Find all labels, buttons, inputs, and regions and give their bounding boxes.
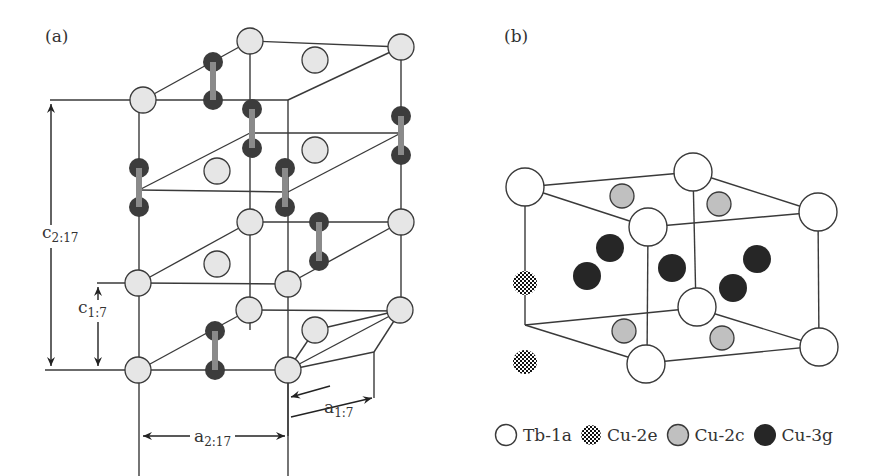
dumbbell [391, 106, 411, 165]
legend-item-cu-2e: Cu-2e [580, 424, 658, 446]
dimension-a-2-17: a2:17 [194, 426, 231, 449]
dumbbell [309, 212, 329, 271]
dim-base: a [194, 426, 204, 446]
dim-sub: 1:7 [334, 406, 353, 420]
black-circle-icon [753, 423, 777, 447]
cu-2e-atoms [513, 271, 537, 374]
dumbbell [242, 99, 262, 158]
legend-label: Tb-1a [523, 425, 572, 445]
dumbbell [275, 158, 295, 217]
dimension-a-1-7: a1:7 [324, 397, 353, 420]
legend-item-cu-3g: Cu-3g [753, 423, 833, 447]
legend: Tb-1a Cu-2e Cu-2c Cu-3g [494, 423, 837, 447]
legend-item-cu-2c: Cu-2c [666, 423, 745, 447]
cu-3g-atoms [573, 234, 771, 302]
cu-2c-atoms [610, 184, 734, 350]
dim-base: c [42, 222, 52, 242]
panel-b-label: (b) [504, 26, 528, 46]
dim-sub: 2:17 [52, 231, 79, 245]
dimension-c-2-17: c2:17 [42, 222, 78, 245]
dim-sub: 2:17 [204, 435, 231, 449]
gray-circle-icon [666, 423, 690, 447]
dumbbell [203, 52, 223, 110]
tb-1a-atoms [506, 153, 838, 383]
legend-label: Cu-3g [782, 425, 833, 445]
rare-earth-atoms [125, 28, 414, 383]
dumbbell [205, 321, 225, 380]
legend-item-tb-1a: Tb-1a [494, 423, 572, 447]
panel-a-label: (a) [45, 26, 68, 46]
cell-lines [525, 172, 819, 363]
dumbbell [129, 158, 149, 217]
dimension-c-1-7: c1:7 [78, 297, 107, 320]
open-circle-icon [494, 423, 518, 447]
dim-sub: 1:7 [88, 306, 107, 320]
cu-dumbbells [129, 52, 411, 380]
legend-label: Cu-2c [695, 425, 745, 445]
checkered-circle-icon [580, 424, 602, 446]
legend-label: Cu-2e [607, 425, 658, 445]
dim-base: c [78, 297, 88, 317]
dim-base: a [324, 397, 334, 417]
